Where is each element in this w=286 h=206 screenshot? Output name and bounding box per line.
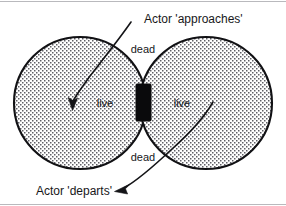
gate-rectangle[interactable] <box>136 84 151 121</box>
svg-text:live: live <box>97 97 114 109</box>
figure-canvas: live live dead dead Actor 'approaches' A… <box>0 0 286 206</box>
right-zone-circle[interactable] <box>140 37 272 169</box>
annotation-approaches: Actor 'approaches' <box>144 12 243 26</box>
annotation-departs: Actor 'departs' <box>36 184 112 198</box>
region-label-dead-bottom: dead <box>131 151 155 163</box>
svg-text:Actor 'approaches': Actor 'approaches' <box>144 12 243 26</box>
region-label-left-live: live <box>97 97 114 109</box>
svg-text:live: live <box>174 97 191 109</box>
diagram-svg: live live dead dead Actor 'approaches' A… <box>0 0 286 206</box>
departs-arrowhead-icon <box>115 184 131 194</box>
region-label-right-live: live <box>174 97 191 109</box>
region-label-dead-top: dead <box>131 43 155 55</box>
svg-text:dead: dead <box>131 151 155 163</box>
svg-text:Actor 'departs': Actor 'departs' <box>36 184 112 198</box>
left-zone-circle[interactable] <box>14 37 146 169</box>
svg-text:dead: dead <box>131 43 155 55</box>
